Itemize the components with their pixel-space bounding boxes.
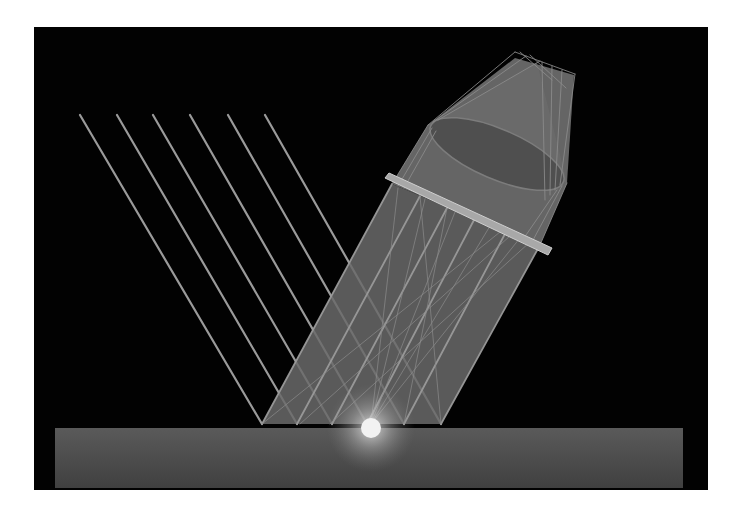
optical-diagram — [0, 0, 740, 519]
specimen-particle — [361, 418, 381, 438]
diagram-canvas — [0, 0, 740, 519]
